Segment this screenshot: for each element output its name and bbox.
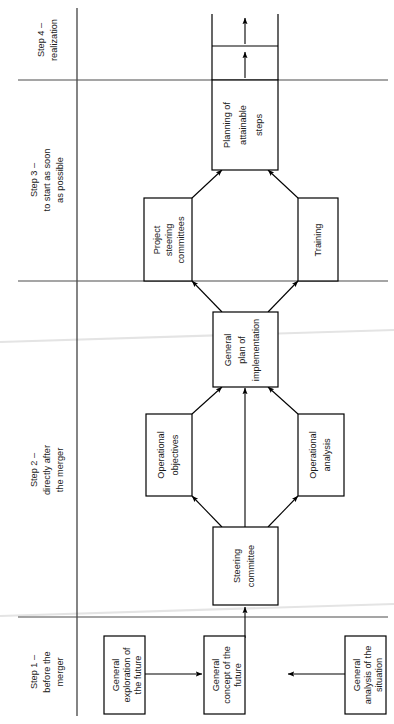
box-label-line1: General — [223, 334, 233, 367]
box-label-line2: steering — [164, 224, 174, 257]
box-label-line3: future — [233, 663, 243, 687]
box-label-line1: General — [211, 659, 221, 692]
box-training[interactable]: Training — [298, 198, 338, 281]
connector-objectives-to-generalplan — [192, 387, 222, 414]
step-2-label-line2: directly after — [42, 445, 52, 495]
connector-opanalysis-to-generalplan — [268, 387, 298, 414]
box-label-line3: situation — [374, 658, 384, 692]
scan-smudge-lower — [0, 604, 394, 616]
box-label-line3: committees — [176, 216, 186, 263]
step-2-label-line3: the merger — [55, 448, 65, 492]
connector-projectsteering-to-planning — [192, 170, 222, 198]
box-project-steering-committees[interactable]: Project steering committees — [144, 198, 192, 281]
step-3-label-line3: as possible — [55, 157, 65, 203]
box-label-line1: General — [352, 659, 362, 692]
connector-generalplan-to-projectsteering — [192, 281, 222, 312]
box-label-line1: Operational — [156, 431, 166, 479]
box-general-exploration-of-the-future[interactable]: General exploration of the future — [104, 636, 145, 714]
box-operational-objectives[interactable]: Operational objectives — [146, 414, 192, 496]
step-4-label-line2: realization — [49, 19, 59, 61]
step-2-label-line1: Step 2 – — [29, 452, 39, 487]
step-label-step-1: Step 1 – before the merger — [29, 651, 65, 692]
box-operational-analysis[interactable]: Operational analysis — [298, 414, 344, 496]
scan-smudge-upper — [0, 330, 394, 342]
box-label-line3: the future — [133, 656, 143, 695]
box-label-line3: steps — [254, 114, 264, 136]
box-outline — [298, 414, 344, 496]
step-4-label-line1: Step 4 – — [36, 22, 46, 57]
connector-steering-to-opanalysis — [268, 496, 298, 527]
step-label-step-2: Step 2 – directly after the merger — [29, 445, 65, 495]
box-label-line3: implementation — [251, 319, 261, 381]
box-label-line1: Operational — [308, 431, 318, 479]
box-label-line2: analysis of the — [363, 646, 373, 705]
box-label-line2: committee — [246, 545, 256, 587]
box-label-line2: attainable — [238, 105, 248, 145]
connector-steering-to-objectives — [192, 496, 222, 527]
box-planning-of-attainable-steps[interactable]: Planning of attainable steps — [212, 80, 278, 170]
box-general-concept-of-the-future[interactable]: General concept of the future — [204, 636, 245, 714]
box-label-line2: concept of the — [222, 646, 232, 704]
step-label-step-3: Step 3 – to start as soon as possible — [29, 149, 65, 212]
step-1-label-line1: Step 1 – — [29, 654, 39, 689]
step-3-label-line2: to start as soon — [42, 149, 52, 212]
box-label-line2: exploration of — [122, 647, 132, 703]
box-label-line2: objectives — [170, 434, 180, 475]
box-label-line1: General — [111, 659, 121, 692]
box-label-line1: Training — [313, 224, 323, 257]
box-label-line2: plan of — [237, 336, 247, 364]
box-steering-committee[interactable]: Steering committee — [213, 527, 278, 605]
step-label-step-4: Step 4 – realization — [36, 19, 59, 61]
box-label-line2: analysis — [322, 438, 332, 472]
box-general-plan-of-implementation[interactable]: General plan of implementation — [213, 312, 278, 387]
connector-generalplan-to-training — [268, 281, 298, 312]
step-1-label-line2: before the — [42, 651, 52, 692]
box-label-line1: Project — [152, 225, 162, 254]
step-1-label-line3: merger — [55, 657, 65, 686]
box-general-analysis-of-the-situation[interactable]: General analysis of the situation — [345, 636, 386, 714]
box-outline — [146, 414, 192, 496]
step-3-label-line1: Step 3 – — [29, 162, 39, 197]
connector-training-to-planning — [268, 170, 298, 198]
diagram-page: Step 4 – realization Step 3 – to start a… — [0, 0, 394, 724]
flowchart-canvas: Step 4 – realization Step 3 – to start a… — [0, 0, 394, 724]
box-label-line1: Planning of — [222, 102, 232, 148]
box-label-line1: Steering — [232, 549, 242, 583]
